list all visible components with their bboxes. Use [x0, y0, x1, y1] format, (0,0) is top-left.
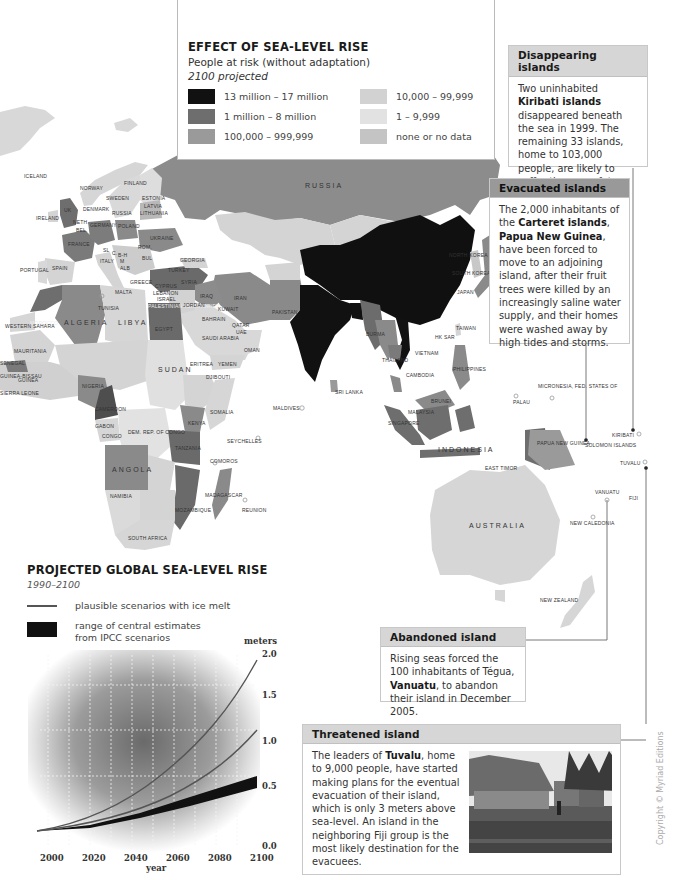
legend-swatch [188, 109, 215, 124]
callout-body: The 2,000 inhabitants of the Carteret is… [490, 198, 629, 355]
legend-item: 1 million – 8 million [188, 109, 360, 124]
label-cameroon: CAMEROON [95, 406, 126, 412]
y-tick: 0.5 [262, 781, 277, 791]
label-kiribati: KIRIBATI [612, 432, 634, 438]
label-madagascar: MADAGASCAR [205, 492, 243, 498]
label-romania: ROM. [138, 244, 152, 250]
label-singapore: SINGAPORE [388, 420, 420, 426]
label-north-korea: NORTH KOREA [449, 252, 488, 258]
label-congo: CONGO [102, 433, 122, 439]
legend-item: 13 million – 17 million [188, 89, 360, 104]
label-papua-new-guinea: PAPUA NEW GUINEA [537, 440, 591, 446]
label-libya: LIBYA [118, 319, 147, 326]
label-qatar: QATAR [232, 322, 250, 328]
callout-title: Threatened island [303, 725, 620, 744]
label-cyprus: CYPRUS [155, 283, 178, 289]
label-iceland: ICELAND [24, 173, 47, 179]
label-somalia: SOMALIA [210, 409, 234, 415]
label-tunisia: TUNISIA [98, 305, 120, 311]
label-russia-kaliningrad: RUSSIA [112, 210, 132, 216]
label-norway: NORWAY [80, 185, 104, 191]
label-yemen: YEMEN [218, 361, 237, 367]
label-solomon-islands: SOLOMON ISLANDS [585, 442, 637, 448]
label-pakistan: PAKISTAN [272, 309, 298, 315]
landmass-greenland [0, 106, 55, 156]
label-poland: POLAND [118, 223, 140, 229]
country-morocco [30, 285, 62, 312]
label-bahrain: BAHRAIN [202, 316, 226, 322]
label-palau: PALAU [513, 399, 530, 405]
label-syria: SYRIA [181, 279, 197, 285]
label-egypt: EGYPT [155, 326, 173, 332]
label-vietnam: VIETNAM [415, 350, 439, 356]
label-mauritania: MAURITANIA [14, 348, 47, 354]
callout-title: Evacuated islands [490, 179, 629, 198]
label-cambodia: CAMBODIA [406, 372, 435, 378]
label-tuvalu: TUVALU [620, 460, 641, 466]
label-guinea: GUINEA [18, 377, 39, 383]
y-tick: 0.0 [262, 841, 277, 851]
callout-body: The leaders of Tuvalu, home to 9,000 peo… [303, 744, 620, 875]
label-netherlands: NETH. [73, 219, 89, 225]
legend-subtitle: People at risk (without adaptation) [188, 56, 370, 68]
label-south-korea: SOUTH KOREA [452, 270, 491, 276]
label-finland: FINLAND [124, 180, 147, 186]
label-seychelles: SEYCHELLES [227, 438, 262, 444]
label-mozambique: MOZAMBIQUE [175, 507, 212, 513]
label-japan: JAPAN [457, 289, 474, 295]
legend-year: 2100 projected [188, 70, 268, 82]
callout-text: The leaders of Tuvalu, home to 9,000 peo… [312, 749, 461, 869]
label-iran: IRAN [234, 295, 247, 301]
label-sweden: SWEDEN [106, 195, 129, 201]
callout-title: Disappearing islands [509, 46, 647, 77]
country-kenya [180, 405, 205, 432]
legend-swatch [188, 129, 215, 144]
label-east-timor: EAST TIMOR [485, 465, 518, 471]
label-vanuatu: VANUATU [595, 489, 620, 495]
legend-title: EFFECT OF SEA-LEVEL RISE [188, 40, 369, 54]
country-mauritania [10, 330, 55, 362]
callout-body: Rising seas forced the 100 inhabitants o… [381, 647, 525, 724]
label-thailand: THAILAND [382, 357, 409, 363]
country-afghanistan [265, 262, 300, 280]
label-sierra-leone: SIERRA LEONE [0, 390, 40, 396]
label-russia: RUSSIA [305, 182, 343, 189]
label-uk: UK [64, 207, 72, 213]
callout-threatened-island: Threatened island The leaders of Tuvalu,… [302, 724, 621, 875]
y-axis-unit: meters [244, 636, 277, 646]
landmass-svalbard [114, 118, 138, 132]
label-malaysia: MALAYSIA [408, 409, 435, 415]
callout-evacuated-islands: Evacuated islands The 2,000 inhabitants … [489, 178, 630, 344]
y-tick: 2.0 [262, 649, 277, 659]
label-jordan: JORDAN [183, 302, 205, 308]
label-croatia: C. [112, 250, 117, 256]
legend-label: 13 million – 17 million [224, 91, 328, 102]
chart-background [28, 650, 260, 853]
legend-label: none or no data [396, 131, 472, 142]
label-albania: ALB [120, 265, 131, 271]
legend-item: 1 – 9,999 [360, 109, 488, 124]
x-axis-label: year [145, 863, 167, 873]
label-saudi-arabia: SAUDI ARABIA [202, 335, 240, 341]
callout-body: Two uninhabited Kiribati islands disappe… [509, 77, 647, 194]
label-kenya: KENYA [188, 420, 206, 426]
label-senegal: SENEGAL [0, 360, 25, 366]
label-eritrea: ERITREA [190, 361, 214, 367]
label-bulgaria: BUL [142, 255, 152, 261]
legend-swatch [188, 89, 215, 104]
label-south-africa: SOUTH AFRICA [128, 535, 168, 541]
label-france: FRANCE [68, 241, 90, 247]
y-tick: 1.0 [262, 736, 277, 746]
label-fiji: FIJI [629, 495, 638, 501]
label-belgium: BEL. [76, 227, 88, 233]
label-oman: OMAN [244, 347, 260, 353]
label-greece: GREECE [130, 279, 153, 285]
label-turkey: TURKEY [168, 267, 190, 273]
legend-label: 1 million – 8 million [224, 111, 316, 122]
legend-label: 10,000 – 99,999 [396, 91, 473, 102]
label-denmark: DENMARK [83, 206, 110, 212]
legend-item: none or no data [360, 129, 488, 144]
label-latvia: LATVIA [144, 203, 163, 209]
country-botswana-zimbabwe [140, 490, 175, 520]
label-slovenia: SL [103, 247, 110, 253]
